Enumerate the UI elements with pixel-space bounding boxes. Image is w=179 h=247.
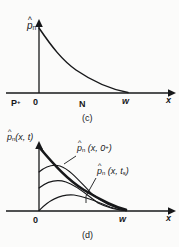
panel-d-leader-initial: [64, 156, 76, 164]
panel-c-n-region-label: N: [79, 100, 86, 109]
hat-accent-icon: ^: [28, 16, 32, 25]
hat-accent-icon-initial: ^: [78, 139, 82, 147]
figure-vector-canvas: [0, 0, 179, 247]
textbook-figure-panels-c-d: ^pn P+ 0 N w x (c) ^pn(x, t) ^pn (x, 0+)…: [0, 0, 179, 247]
panel-c-y-axis-arrowhead: [35, 19, 43, 27]
panel-d-annotation-initial: ^pn (x, 0+): [77, 144, 112, 154]
panel-c-steady-state-curve: [39, 28, 128, 93]
panel-d-width-label: w: [119, 215, 126, 224]
panel-c-p-plus-region-label: P+: [11, 99, 20, 108]
panel-d-caption: (d): [82, 231, 93, 240]
hat-accent-icon-d-axis: ^: [8, 128, 12, 136]
panel-d-y-axis-label: ^pn(x, t): [7, 133, 33, 143]
panel-d-x-axis-label: x: [166, 214, 171, 223]
panel-d-curve-ts: [39, 195, 126, 211]
hat-accent-icon-storage: ^: [98, 162, 102, 170]
panel-c-width-label: w: [122, 97, 129, 106]
panel-d-origin-label: 0: [33, 216, 38, 225]
panel-c-x-axis-label: x: [166, 96, 171, 105]
panel-c-y-axis-label: ^pn: [27, 21, 36, 32]
panel-d-annotation-storage: ^pn (x, ts): [97, 167, 129, 177]
panel-c-origin-label: 0: [33, 98, 38, 107]
panel-c-caption: (c): [82, 114, 93, 123]
